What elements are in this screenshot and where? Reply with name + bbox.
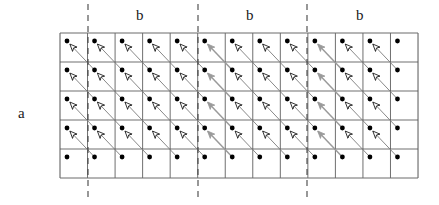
lattice-point-dot	[312, 97, 317, 102]
lattice-point-dot	[120, 39, 125, 44]
vector-arrow-open	[180, 44, 205, 70]
lattice-point-dot	[120, 126, 125, 131]
lattice-point-dot	[147, 68, 152, 73]
lattice-point-dot	[120, 68, 125, 73]
lattice-point-dot	[202, 68, 207, 73]
vector-arrow-open	[345, 73, 370, 99]
vector-arrow-open	[263, 44, 288, 70]
lattice-point-dot	[285, 68, 290, 73]
lattice-point-dot	[175, 126, 180, 131]
lattice-point-dot	[175, 97, 180, 102]
figure-container: a b b b	[0, 0, 439, 205]
axis-label-b-2: b	[246, 8, 254, 23]
vector-arrow-open	[180, 131, 205, 157]
lattice-point-dot	[285, 39, 290, 44]
lattice-point-dot	[230, 155, 235, 160]
vector-arrow-open	[70, 102, 95, 128]
lattice-point-dot	[202, 39, 207, 44]
lattice-point-dot	[312, 39, 317, 44]
lattice-point-dot	[368, 155, 373, 160]
lattice-point-dot	[395, 97, 400, 102]
vector-arrow-open	[70, 131, 95, 157]
lattice-point-dot	[230, 126, 235, 131]
lattice-point-dot	[65, 39, 70, 44]
lattice-point-dot	[368, 39, 373, 44]
lattice-point-dot	[175, 155, 180, 160]
vector-arrow-open	[235, 73, 260, 99]
lattice-point-dot	[395, 39, 400, 44]
lattice-point-dot	[147, 155, 152, 160]
lattice-point-dot	[285, 97, 290, 102]
vector-arrow-open	[125, 102, 150, 128]
lattice-point-dot	[65, 155, 70, 160]
lattice-point-dot	[395, 68, 400, 73]
lattice-point-dot	[202, 126, 207, 131]
lattice-point-dot	[312, 155, 317, 160]
lattice-point-dot	[202, 155, 207, 160]
vector-arrow-open	[235, 102, 260, 128]
lattice-point-dot	[312, 68, 317, 73]
lattice-point-dot	[257, 39, 262, 44]
lattice-point-dot	[230, 68, 235, 73]
vector-arrow-open	[345, 44, 370, 70]
lattice-point-dot	[92, 126, 97, 131]
vector-arrow-open	[125, 73, 150, 99]
vector-arrow-open	[153, 44, 178, 70]
axis-label-b-3: b	[356, 8, 364, 23]
lattice-point-dot	[340, 126, 345, 131]
vector-arrow-open	[235, 44, 260, 70]
lattice-point-dot	[257, 97, 262, 102]
lattice-point-dot	[120, 97, 125, 102]
vector-arrow-filled	[208, 73, 233, 99]
vector-arrow-open	[373, 73, 398, 99]
lattice-point-dot	[230, 39, 235, 44]
vector-arrow-open	[263, 102, 288, 128]
vector-arrow-open	[235, 131, 260, 157]
grid-lines	[60, 33, 418, 178]
vector-arrow-open	[98, 102, 123, 128]
vector-arrow-open	[373, 44, 398, 70]
lattice-point-dot	[65, 126, 70, 131]
lattice-point-dot	[92, 97, 97, 102]
axis-label-a: a	[18, 106, 25, 121]
vector-arrow-filled	[318, 44, 343, 70]
lattice-point-dot	[340, 97, 345, 102]
vector-arrow-open	[125, 44, 150, 70]
lattice-point-dot	[202, 97, 207, 102]
lattice-point-dot	[285, 126, 290, 131]
vector-arrow-open	[153, 73, 178, 99]
lattice-point-dot	[147, 39, 152, 44]
lattice-point-dot	[92, 68, 97, 73]
vector-arrow-open	[290, 102, 315, 128]
vector-arrow-filled	[318, 131, 343, 157]
lattice-point-dot	[257, 68, 262, 73]
lattice-point-dot	[340, 68, 345, 73]
vector-arrow-open	[98, 73, 123, 99]
lattice-point-dot	[147, 126, 152, 131]
vector-arrow-open	[153, 131, 178, 157]
vector-arrow-open	[125, 131, 150, 157]
lattice-point-dot	[175, 39, 180, 44]
vector-arrow-filled	[208, 131, 233, 157]
vector-arrow-open	[290, 44, 315, 70]
lattice-point-dot	[65, 97, 70, 102]
vector-arrow-open	[180, 73, 205, 99]
lattice-point-dot	[175, 68, 180, 73]
vector-arrow-open	[98, 131, 123, 157]
lattice-point-dot	[340, 39, 345, 44]
lattice-point-dot	[92, 155, 97, 160]
lattice-point-dot	[395, 126, 400, 131]
vector-arrow-filled	[208, 44, 233, 70]
lattice-point-dot	[368, 97, 373, 102]
lattice-point-dot	[368, 126, 373, 131]
vector-arrow-open	[373, 131, 398, 157]
lattice-point-dot	[368, 68, 373, 73]
vector-arrow-open	[373, 102, 398, 128]
vector-arrow-open	[153, 102, 178, 128]
lattice-point-dot	[340, 155, 345, 160]
axis-label-b-1: b	[136, 8, 144, 23]
vector-arrow-filled	[318, 102, 343, 128]
lattice-point-dot	[395, 155, 400, 160]
vector-arrow-open	[345, 131, 370, 157]
vector-arrow-open	[98, 44, 123, 70]
